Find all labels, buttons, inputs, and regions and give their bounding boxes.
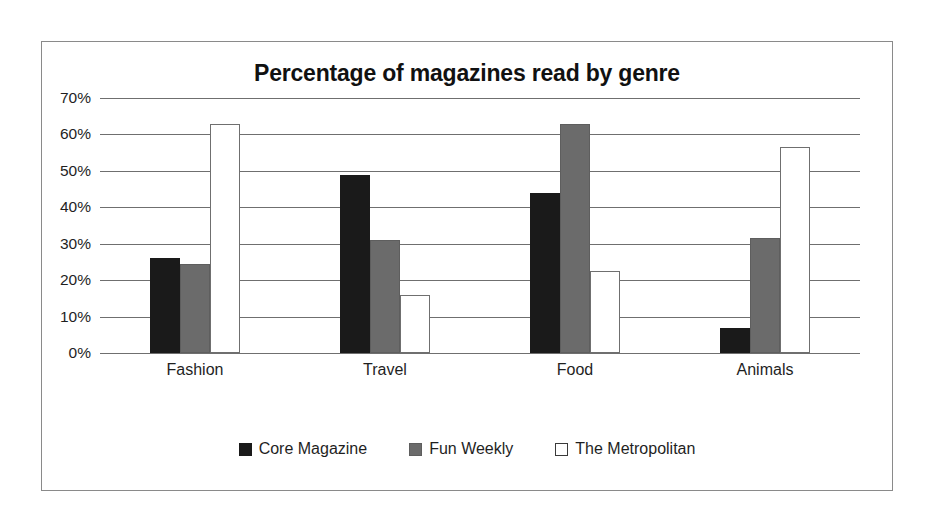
category-label-animals: Animals — [670, 361, 860, 379]
legend-item-the-metropolitan[interactable]: The Metropolitan — [555, 440, 695, 458]
legend-label: Core Magazine — [259, 440, 368, 458]
category-label-fashion: Fashion — [100, 361, 290, 379]
legend-swatch-icon — [239, 443, 252, 456]
legend-swatch-icon — [409, 443, 422, 456]
bar-animals-the-metropolitan — [780, 147, 810, 353]
legend-label: Fun Weekly — [429, 440, 513, 458]
y-tick-label: 30% — [60, 235, 91, 253]
chart-legend: Core MagazineFun WeeklyThe Metropolitan — [42, 440, 892, 458]
bar-animals-core-magazine — [720, 328, 750, 354]
bar-food-fun-weekly — [560, 124, 590, 354]
bar-fashion-core-magazine — [150, 258, 180, 353]
bar-group-animals: Animals — [670, 98, 860, 353]
bar-food-the-metropolitan — [590, 271, 620, 353]
category-label-food: Food — [480, 361, 670, 379]
plot-area: 70%60%50%40%30%20%10%0% FashionTravelFoo… — [100, 98, 860, 353]
gridline-0% — [100, 353, 860, 354]
legend-label: The Metropolitan — [575, 440, 695, 458]
legend-item-core-magazine[interactable]: Core Magazine — [239, 440, 368, 458]
y-tick-label: 50% — [60, 162, 91, 180]
bar-food-core-magazine — [530, 193, 560, 353]
bar-animals-fun-weekly — [750, 238, 780, 353]
y-tick-label: 0% — [69, 344, 91, 362]
y-tick-label: 40% — [60, 198, 91, 216]
bar-fashion-fun-weekly — [180, 264, 210, 353]
chart-title: Percentage of magazines read by genre — [42, 60, 892, 87]
bar-travel-the-metropolitan — [400, 295, 430, 353]
chart-frame: Percentage of magazines read by genre 70… — [41, 41, 893, 491]
y-tick-label: 10% — [60, 308, 91, 326]
y-tick-label: 20% — [60, 271, 91, 289]
bar-group-fashion: Fashion — [100, 98, 290, 353]
bar-travel-core-magazine — [340, 175, 370, 354]
legend-swatch-icon — [555, 443, 568, 456]
legend-item-fun-weekly[interactable]: Fun Weekly — [409, 440, 513, 458]
bars-layer: FashionTravelFoodAnimals — [100, 98, 860, 353]
y-tick-label: 60% — [60, 125, 91, 143]
bar-group-travel: Travel — [290, 98, 480, 353]
category-label-travel: Travel — [290, 361, 480, 379]
bar-fashion-the-metropolitan — [210, 124, 240, 354]
bar-travel-fun-weekly — [370, 240, 400, 353]
bar-group-food: Food — [480, 98, 670, 353]
y-tick-label: 70% — [60, 89, 91, 107]
